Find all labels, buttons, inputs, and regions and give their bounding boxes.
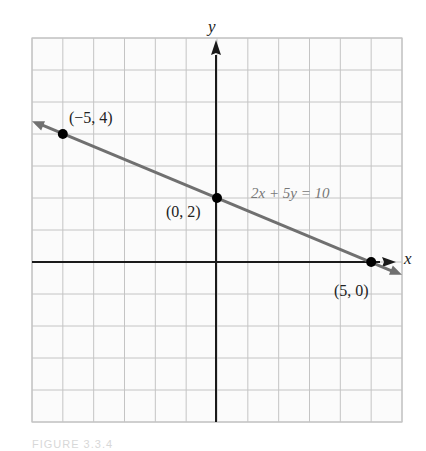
point-label-0-2: (0, 2) bbox=[166, 204, 201, 220]
data-point bbox=[58, 129, 68, 139]
point-label-5-0: (5, 0) bbox=[334, 283, 369, 299]
data-point bbox=[212, 193, 222, 203]
equation-label: 2x + 5y = 10 bbox=[251, 186, 330, 201]
x-axis-label: x bbox=[404, 250, 412, 267]
y-axis-label: y bbox=[208, 18, 216, 35]
point-label-neg5-4: (−5, 4) bbox=[69, 110, 113, 126]
figure-caption: FIGURE 3.3.4 bbox=[32, 438, 113, 450]
data-point bbox=[366, 257, 376, 267]
coordinate-plane bbox=[0, 0, 426, 451]
